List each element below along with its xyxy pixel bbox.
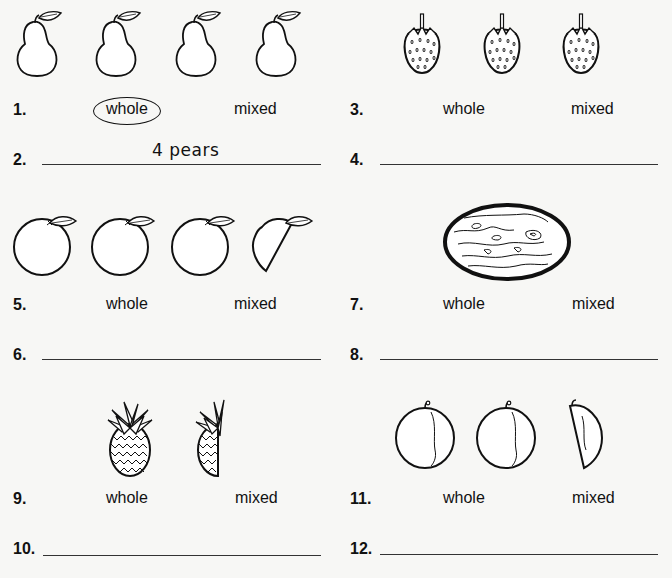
option-whole[interactable]: whole (443, 489, 485, 507)
option-mixed[interactable]: mixed (234, 295, 277, 313)
pear-icon (252, 10, 302, 80)
pineapple-icon (108, 400, 154, 480)
strawberry-icon (400, 12, 446, 78)
plum-icon (476, 400, 538, 472)
pear-icon (13, 10, 63, 80)
plum-part-icon (564, 398, 606, 470)
answer-line[interactable] (42, 359, 321, 360)
option-whole[interactable]: whole (443, 295, 485, 313)
melon-icon (444, 204, 574, 284)
answer-line[interactable] (380, 554, 658, 555)
strawberry-icon (559, 12, 605, 78)
answer-text[interactable]: 4 pears (152, 140, 219, 160)
plum-icon (395, 400, 457, 472)
answer-line[interactable] (380, 164, 658, 165)
pear-icon (172, 10, 222, 80)
question-number: 8. (350, 346, 363, 364)
option-mixed[interactable]: mixed (234, 100, 277, 118)
question-number: 5. (13, 296, 26, 314)
option-whole[interactable]: whole (443, 100, 485, 118)
option-whole[interactable]: whole (106, 489, 148, 507)
pear-icon (92, 10, 142, 80)
question-number: 6. (13, 346, 26, 364)
question-number: 1. (13, 101, 26, 119)
question-number: 4. (350, 151, 363, 169)
option-mixed[interactable]: mixed (572, 489, 615, 507)
orange-icon (92, 211, 158, 277)
question-number: 2. (13, 151, 26, 169)
answer-line[interactable] (42, 164, 321, 165)
option-whole[interactable]: whole (106, 295, 148, 313)
question-number: 3. (350, 101, 363, 119)
orange-icon (14, 211, 80, 277)
question-number: 7. (350, 296, 363, 314)
question-number: 12. (350, 540, 372, 558)
option-whole[interactable]: whole (106, 100, 148, 118)
orange-part-icon (250, 211, 316, 277)
orange-icon (172, 211, 238, 277)
question-number: 11. (350, 490, 371, 508)
answer-line[interactable] (43, 555, 321, 556)
pineapple-part-icon (196, 400, 226, 480)
question-number: 9. (13, 490, 26, 508)
option-mixed[interactable]: mixed (235, 489, 278, 507)
strawberry-icon (480, 12, 526, 78)
answer-line[interactable] (380, 359, 658, 360)
question-number: 10. (13, 540, 35, 558)
option-mixed[interactable]: mixed (571, 100, 614, 118)
option-mixed[interactable]: mixed (572, 295, 615, 313)
